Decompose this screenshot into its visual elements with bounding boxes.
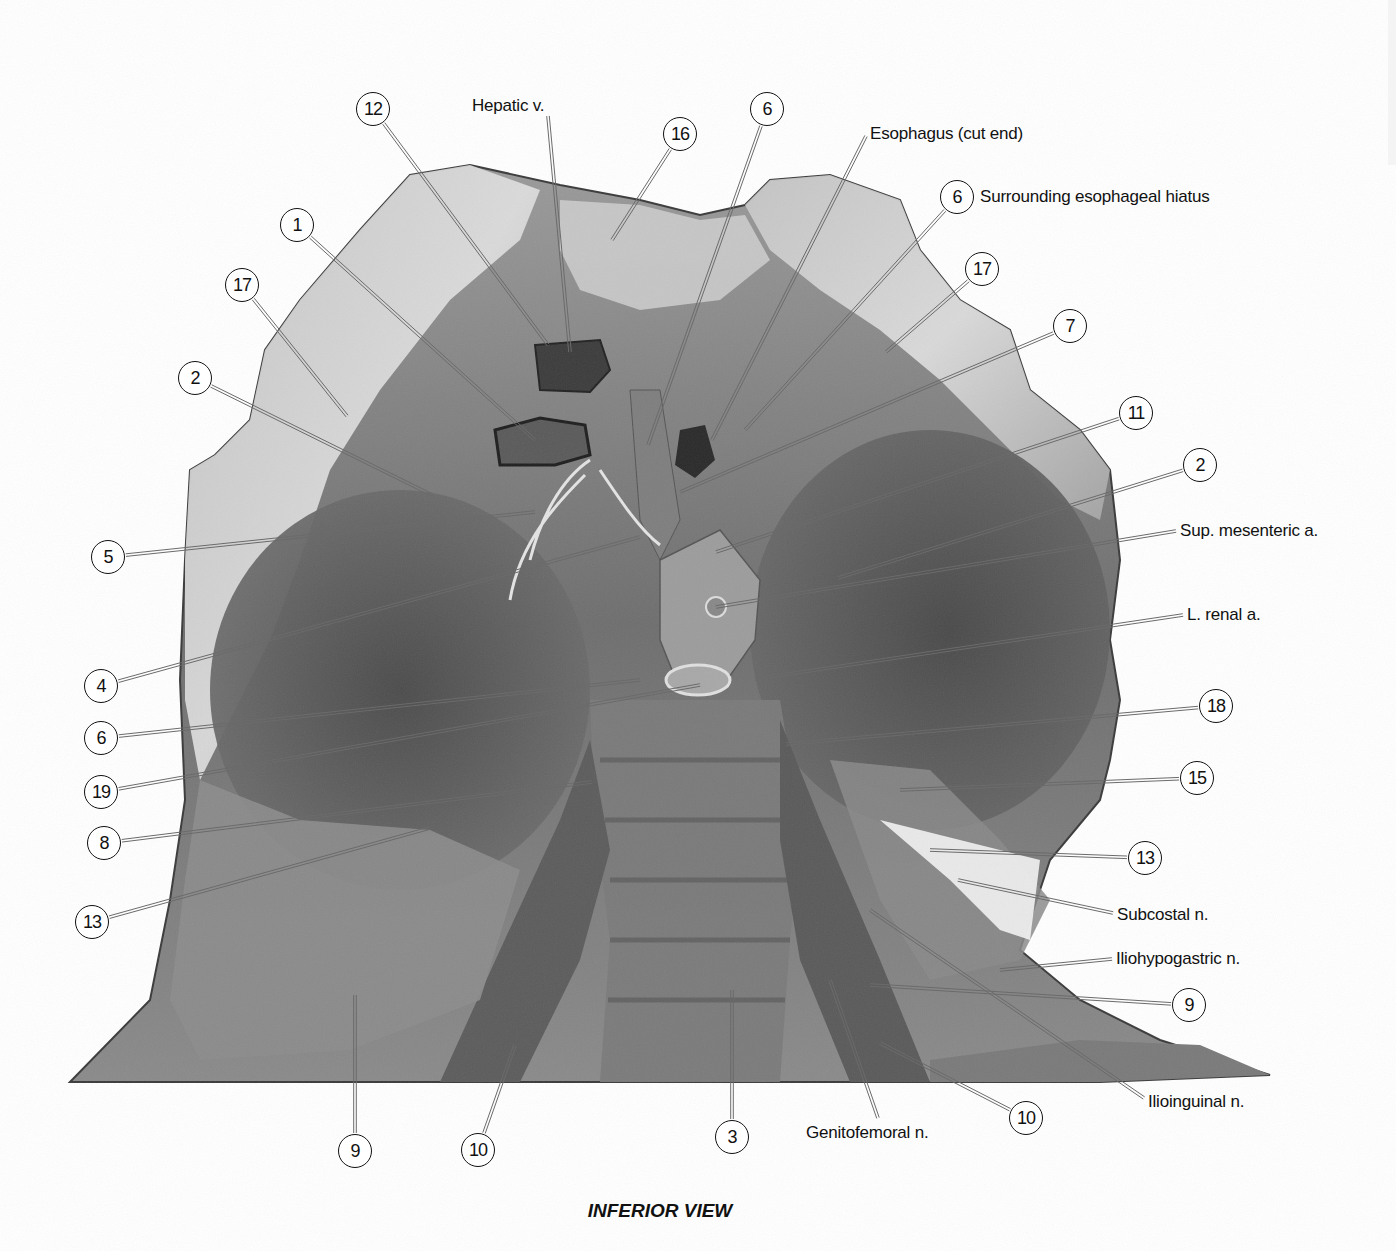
callout-number-8: 8 bbox=[87, 826, 121, 860]
callout-number-13: 13 bbox=[1128, 841, 1162, 875]
structure-label-subcostal-n: Subcostal n. bbox=[1117, 905, 1208, 925]
callout-number-6: 6 bbox=[84, 721, 118, 755]
callout-number-17: 17 bbox=[965, 252, 999, 286]
structure-label-esophagus: Esophagus (cut end) bbox=[870, 124, 1023, 144]
callout-number-9: 9 bbox=[338, 1134, 372, 1168]
callout-number-15: 15 bbox=[1180, 761, 1214, 795]
callout-number-3: 3 bbox=[715, 1120, 749, 1154]
page-edge bbox=[1388, 0, 1396, 165]
callout-number-11: 11 bbox=[1119, 396, 1153, 430]
structure-label-sup-mes-a: Sup. mesenteric a. bbox=[1180, 521, 1318, 541]
callout-number-12: 12 bbox=[356, 92, 390, 126]
callout-number-2: 2 bbox=[1183, 448, 1217, 482]
structure-label-hiatus: Surrounding esophageal hiatus bbox=[980, 187, 1210, 207]
callout-number-10: 10 bbox=[461, 1133, 495, 1167]
structure-label-hepatic-v: Hepatic v. bbox=[472, 96, 544, 116]
callout-number-1: 1 bbox=[280, 208, 314, 242]
structure-label-iliohypo-n: Iliohypogastric n. bbox=[1116, 949, 1240, 969]
callout-number-2: 2 bbox=[178, 361, 212, 395]
callout-number-18: 18 bbox=[1199, 689, 1233, 723]
callout-number-17: 17 bbox=[225, 268, 259, 302]
callout-number-6: 6 bbox=[750, 92, 784, 126]
callout-number-6: 6 bbox=[940, 180, 974, 214]
callout-number-5: 5 bbox=[91, 540, 125, 574]
callout-number-19: 19 bbox=[84, 775, 118, 809]
structure-label-genitofem-n: Genitofemoral n. bbox=[806, 1123, 928, 1143]
view-caption: INFERIOR VIEW bbox=[0, 1200, 1320, 1222]
callout-number-9: 9 bbox=[1172, 988, 1206, 1022]
callout-number-10: 10 bbox=[1009, 1101, 1043, 1135]
callout-number-4: 4 bbox=[84, 669, 118, 703]
callout-number-16: 16 bbox=[663, 117, 697, 151]
structure-label-ilioinguinal: Ilioinguinal n. bbox=[1148, 1092, 1244, 1112]
callout-number-13: 13 bbox=[75, 905, 109, 939]
anatomy-figure: 1216661171772112541861519813139910310Hep… bbox=[0, 0, 1396, 1251]
callout-number-7: 7 bbox=[1053, 309, 1087, 343]
structure-label-l-renal-a: L. renal a. bbox=[1187, 605, 1260, 625]
